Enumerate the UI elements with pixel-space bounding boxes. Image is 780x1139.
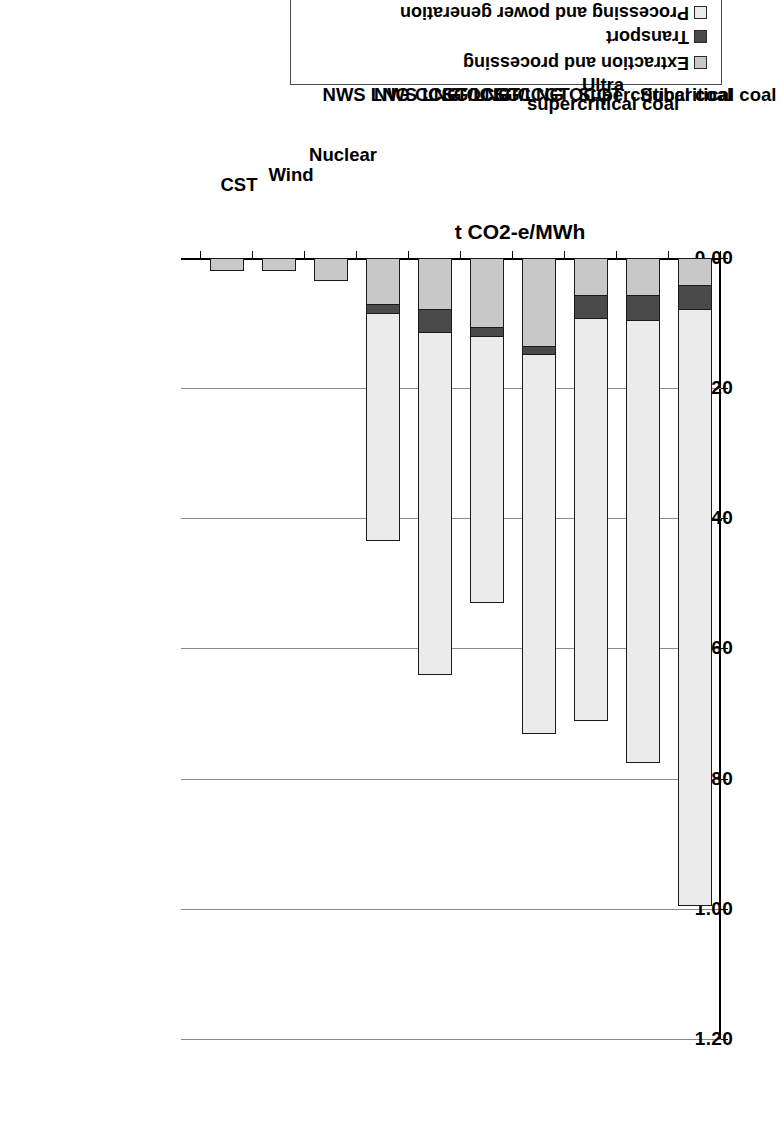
bar-csg-lng-ccgt (470, 258, 504, 603)
category-label-cst: CST (159, 168, 319, 202)
bar-segment (315, 259, 347, 280)
legend-label-extraction: Extraction and processing (463, 52, 689, 73)
chart-legend: Extraction and processing Transport Proc… (290, 0, 722, 85)
bar-segment (419, 309, 451, 331)
gridline-1.20 (181, 1039, 721, 1040)
category-tick-6 (408, 251, 409, 258)
category-tick-3 (564, 251, 565, 258)
legend-label-processing: Processing and power generation (400, 2, 689, 23)
bar-segment (627, 259, 659, 295)
legend-item-processing: Processing and power generation (400, 2, 707, 23)
bar-segment (575, 295, 607, 319)
bar-subcritical-coal (678, 258, 712, 906)
bar-segment (679, 259, 711, 285)
bar-segment (575, 259, 607, 295)
category-tick-0 (720, 251, 721, 258)
legend-swatch-processing (694, 6, 707, 19)
bar-segment (471, 259, 503, 327)
bar-segment (627, 320, 659, 762)
category-tick-10 (200, 251, 201, 258)
bar-segment (367, 304, 399, 313)
bar-segment (523, 259, 555, 346)
legend-swatch-transport (694, 30, 707, 43)
legend-swatch-extraction (694, 56, 707, 69)
tick-label-1.20: 1.20 (695, 1028, 733, 1050)
category-tick-9 (252, 251, 253, 258)
bar-segment (523, 354, 555, 733)
bar-segment (523, 346, 555, 353)
category-label-nws-lng-ccgt: NWS LNG CCGT (270, 78, 520, 112)
bar-cst (210, 258, 244, 271)
value-axis-title: t CO2-e/MWh (420, 220, 620, 246)
category-tick-5 (460, 251, 461, 258)
bar-segment (471, 336, 503, 602)
category-tick-7 (356, 251, 357, 258)
bar-supercritical-coal (626, 258, 660, 763)
bar-segment (211, 259, 243, 270)
bar-segment (679, 285, 711, 309)
bar-segment (627, 295, 659, 321)
bar-wind (262, 258, 296, 271)
bar-nws-lng-ccgt (366, 258, 400, 541)
legend-item-extraction: Extraction and processing (463, 52, 707, 73)
legend-label-transport: Transport (606, 26, 689, 47)
bar-nws-lng-ocgt (418, 258, 452, 675)
bar-segment (471, 327, 503, 336)
category-tick-8 (304, 251, 305, 258)
bar-ultra-supercritical-coal (574, 258, 608, 721)
bar-csg-lng-ocgt (522, 258, 556, 734)
legend-item-transport: Transport (606, 26, 707, 47)
bar-nuclear (314, 258, 348, 281)
category-tick-4 (512, 251, 513, 258)
gridline-1.00 (181, 909, 721, 910)
gridline-0.80 (181, 779, 721, 780)
bar-segment (419, 332, 451, 674)
plot-area: 0.00 0.20 0.40 0.60 0.80 1.00 1.20 (181, 258, 721, 1040)
bar-segment (367, 313, 399, 540)
bar-segment (419, 259, 451, 309)
bar-segment (263, 259, 295, 270)
bar-segment (575, 318, 607, 720)
category-tick-2 (616, 251, 617, 258)
category-tick-1 (668, 251, 669, 258)
bar-segment (679, 309, 711, 906)
bar-segment (367, 259, 399, 304)
